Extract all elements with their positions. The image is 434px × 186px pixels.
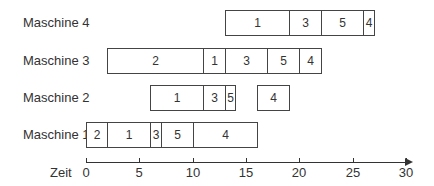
x-tick	[353, 158, 354, 163]
task-bar: 4	[363, 10, 375, 36]
x-tick	[139, 158, 140, 163]
x-tick	[86, 158, 87, 163]
task-bar: 3	[289, 10, 322, 36]
task-bar: 4	[257, 85, 290, 111]
x-tick	[299, 158, 300, 163]
task-bar: 2	[107, 48, 204, 74]
x-axis-title: Zeit	[50, 165, 72, 180]
x-tick-label: 25	[338, 165, 368, 180]
x-tick-label: 10	[178, 165, 208, 180]
x-tick-label: 0	[71, 165, 101, 180]
task-bar: 4	[299, 48, 322, 74]
task-bar: 1	[203, 48, 226, 74]
row-label: Maschine 1	[23, 122, 89, 148]
x-tick-label: 5	[124, 165, 154, 180]
x-tick	[193, 158, 194, 163]
task-bar: 1	[150, 85, 204, 111]
task-bar: 3	[203, 85, 226, 111]
x-tick	[246, 158, 247, 163]
x-tick-label: 30	[391, 165, 421, 180]
row-label: Maschine 2	[23, 85, 89, 111]
row-label: Maschine 3	[23, 48, 89, 74]
task-bar: 5	[161, 122, 194, 148]
task-bar: 3	[225, 48, 268, 74]
row-label: Maschine 4	[23, 10, 89, 36]
task-bar: 1	[225, 10, 290, 36]
task-bar: 4	[193, 122, 258, 148]
task-bar: 5	[225, 85, 236, 111]
task-bar: 2	[86, 122, 108, 148]
x-tick-label: 15	[231, 165, 261, 180]
x-tick-label: 20	[284, 165, 314, 180]
task-bar: 5	[321, 10, 364, 36]
task-bar: 5	[267, 48, 300, 74]
task-bar: 1	[107, 122, 151, 148]
x-tick	[406, 158, 407, 163]
x-axis-line	[86, 162, 408, 163]
